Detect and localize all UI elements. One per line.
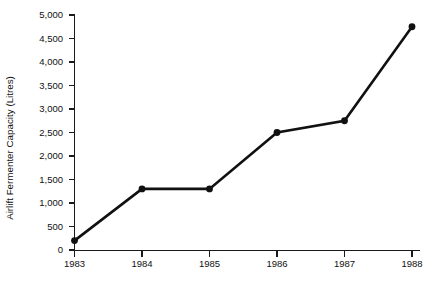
data-point-marker [206,186,213,193]
x-axis-tick-label: 1984 [131,258,152,269]
y-axis-tick-label: 1,500 [39,174,63,185]
line-chart: Airlift Fermenter Capacity (Litres) 0500… [0,0,427,283]
y-axis-tick-label: 4,500 [39,33,63,44]
data-point-marker [139,186,146,193]
x-axis-tick-label: 1988 [401,258,422,269]
x-axis-tick-label: 1983 [64,258,85,269]
y-axis-tick-label: 3,500 [39,80,63,91]
x-axis-tick-label: 1987 [334,258,355,269]
y-axis-tick-label: 500 [47,221,63,232]
y-axis-title-text: Airlift Fermenter Capacity (Litres) [4,76,15,220]
x-axis-tick-label: 1985 [199,258,220,269]
y-axis-tick-label: 0 [58,244,63,255]
y-axis-tick-label: 3,000 [39,103,63,114]
data-point-markers [71,23,415,244]
data-series-line [75,27,413,241]
data-point-marker [409,23,416,30]
y-axis-tick-label: 5,000 [39,9,63,20]
y-axis-tick-marks [69,15,75,250]
x-axis-tick-marks [75,251,413,257]
y-axis-title: Airlift Fermenter Capacity (Litres) [4,76,15,220]
data-point-marker [71,237,78,244]
y-axis-tick-labels: 05001,0001,5002,0002,5003,0003,5004,0004… [39,9,63,255]
x-axis-tick-label: 1986 [266,258,287,269]
data-point-marker [274,129,281,136]
data-point-marker [341,117,348,124]
y-axis-tick-label: 1,000 [39,197,63,208]
y-axis-tick-label: 2,500 [39,127,63,138]
x-axis-tick-labels: 198319841985198619871988 [64,258,423,269]
y-axis-tick-label: 4,000 [39,56,63,67]
y-axis-tick-label: 2,000 [39,150,63,161]
chart-canvas: Airlift Fermenter Capacity (Litres) 0500… [0,0,427,283]
